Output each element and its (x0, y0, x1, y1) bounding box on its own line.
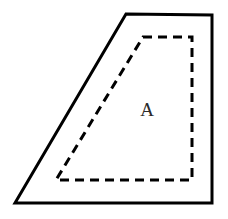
geometry-figure: A (0, 0, 228, 219)
figure-canvas: A (0, 0, 228, 219)
region-label-a: A (140, 99, 154, 120)
